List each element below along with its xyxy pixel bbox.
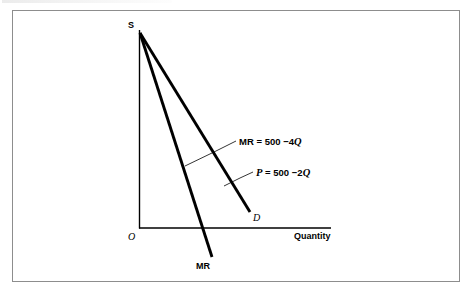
x-axis-label: Quantity [294, 232, 331, 241]
diagram-canvas [0, 0, 475, 297]
marginal-revenue-curve [140, 33, 212, 257]
p-equation-equals: = [265, 167, 271, 178]
mr-equation-equals: = [256, 136, 262, 147]
figure-container: S O Quantity D MR MR = 500 −4Q P = 500 −… [0, 0, 475, 297]
p-equation-variable: Q [303, 167, 311, 178]
mr-equation-leader-line [185, 141, 236, 166]
mr-equation-intercept: 500 [265, 136, 281, 147]
origin-label: O [128, 232, 135, 242]
demand-curve [140, 33, 250, 212]
p-equation-intercept: 500 [273, 167, 289, 178]
y-axis-top-label: S [128, 21, 134, 30]
demand-curve-label: D [253, 213, 260, 223]
mr-equation-label: MR = 500 −4Q [239, 137, 302, 148]
p-equation-label: P = 500 −2Q [256, 168, 310, 179]
mr-equation-variable: Q [294, 136, 302, 147]
marginal-revenue-curve-label: MR [196, 262, 210, 271]
p-equation-prefix: P [256, 167, 262, 178]
mr-equation-prefix: MR [239, 136, 254, 147]
